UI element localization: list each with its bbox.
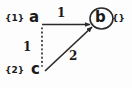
node-b-set-label: {}	[112, 14, 125, 23]
node-c-set-label: {2}	[5, 66, 24, 75]
node-b[interactable]: b	[95, 10, 106, 25]
node-a[interactable]: a	[29, 10, 39, 25]
edge-c-to-b-weight: 2	[69, 50, 77, 62]
node-a-set-label: {1}	[5, 14, 24, 23]
node-c[interactable]: c	[31, 62, 40, 77]
edge-a-to-c-weight: 1	[23, 41, 31, 53]
edge-a-to-b-weight: 1	[57, 7, 65, 19]
graph-diagram-canvas: a b c {1} {} {2} 1 1 2	[0, 0, 132, 88]
